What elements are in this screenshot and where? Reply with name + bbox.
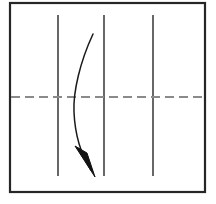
diagram-canvas: [0, 0, 216, 204]
figure-background: [0, 0, 216, 204]
figure-container: [0, 0, 216, 204]
